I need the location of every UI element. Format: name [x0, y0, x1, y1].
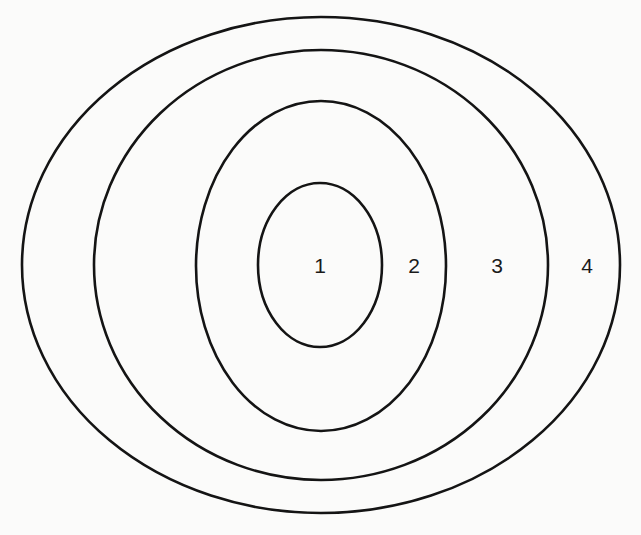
- nested-ellipses-diagram: 1 2 3 4: [0, 0, 641, 535]
- ring-3-label: 3: [491, 254, 503, 277]
- ring-4-label: 4: [581, 254, 593, 277]
- ring-2-label: 2: [408, 254, 420, 277]
- ring-1-label: 1: [314, 254, 326, 277]
